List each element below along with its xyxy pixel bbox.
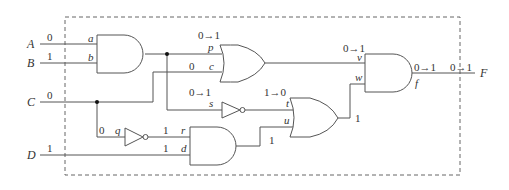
input-label-a: A [26, 37, 35, 51]
pin-label-s: s [209, 97, 213, 109]
output-label-f: F [479, 66, 488, 80]
value-p: 0→1 [198, 29, 220, 41]
pin-label-f: f [415, 77, 420, 89]
value-r: 1 [163, 124, 169, 136]
input-label-c: C [27, 95, 36, 109]
input-label-d: D [26, 148, 36, 162]
wire-u [236, 127, 295, 146]
junction-dot-2 [95, 100, 99, 104]
pin-label-a: a [88, 32, 94, 44]
value-d-in: 1 [47, 142, 53, 154]
wire-w [338, 84, 365, 118]
pin-label-q: q [115, 124, 121, 136]
and-gate-2 [190, 127, 236, 165]
value-b-in: 1 [47, 50, 53, 62]
or-gate-1 [220, 45, 265, 82]
or-gate-2 [290, 98, 338, 137]
value-u: 1 [269, 134, 275, 146]
value-a-in: 0 [47, 31, 53, 43]
not-gate-s [222, 102, 240, 118]
input-label-b: B [27, 56, 35, 70]
pin-label-p: p [207, 41, 214, 53]
value-q: 0 [99, 124, 105, 136]
value-s: 0→1 [189, 86, 211, 98]
and-gate-1 [97, 35, 143, 73]
value-c: 0 [189, 60, 195, 72]
value-w: 1 [355, 112, 361, 124]
pin-label-u: u [284, 114, 290, 126]
pin-label-r: r [181, 124, 186, 136]
value-F: 0→1 [450, 61, 472, 73]
value-f: 0→1 [414, 61, 436, 73]
pin-label-b: b [88, 51, 94, 63]
junction-dot-1 [165, 52, 169, 56]
pin-label-w: w [355, 71, 363, 83]
not-bubble-q [143, 135, 148, 140]
value-d: 1 [163, 142, 169, 154]
not-gate-q [125, 128, 143, 146]
value-t: 1→0 [264, 86, 287, 98]
pin-label-c: c [209, 60, 214, 72]
pin-label-d: d [181, 142, 187, 154]
pin-label-t: t [286, 97, 290, 109]
not-bubble-s [240, 108, 245, 113]
and-gate-3 [365, 54, 412, 92]
value-c-in: 0 [47, 89, 53, 101]
value-v: 0→1 [343, 42, 365, 54]
logic-circuit-diagram: A B C D F 0 1 0 1 a b p c s q r d t u v … [0, 0, 509, 190]
